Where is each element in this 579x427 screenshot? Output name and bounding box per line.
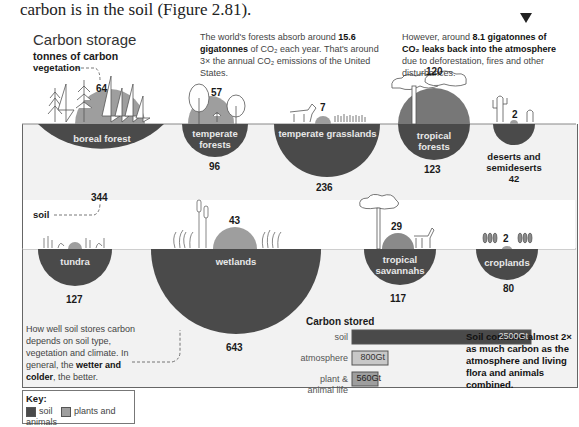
temperate-forests-label: temperateforests [185, 128, 245, 150]
deserts-label: deserts andsemideserts42 [482, 151, 546, 184]
soil-storage-note: How well soil stores carbon depends on s… [26, 323, 146, 383]
chart-title: Carbon storage [33, 31, 136, 48]
tropical-forest-soil-value: 123 [424, 164, 441, 175]
boreal-forest-label: boreal forest [62, 133, 142, 144]
bar-label-soil: soil [290, 332, 348, 343]
vegetation-label: vegetation [33, 62, 81, 73]
soil-label: soil [33, 209, 49, 220]
bar-plant-animal: 560Gt [352, 372, 382, 386]
legend-title: Key: [23, 391, 134, 406]
bar-label-plant-animal: plant &animal life [290, 374, 348, 396]
wetlands-veg-value: 43 [229, 215, 240, 226]
temperate-forest-soil-value: 96 [209, 161, 220, 172]
temperate-grasslands-label: temperate grasslands [270, 128, 385, 139]
legend: Key: soil plants and animals [22, 390, 135, 424]
croplands-soil-value: 80 [503, 283, 514, 294]
bar-atmosphere: 800Gt [352, 351, 388, 365]
plants-swatch-icon [61, 407, 71, 417]
savannah-soil-value: 117 [390, 293, 406, 304]
croplands-veg-value: 2 [503, 233, 509, 244]
tundra-soil-value: 127 [66, 294, 83, 305]
savannah-veg-value: 29 [391, 221, 402, 232]
carbon-stored-title: Carbon stored [306, 316, 374, 327]
legend-items: soil plants and animals [23, 406, 134, 427]
wetlands-label: wetlands [196, 256, 276, 267]
grassland-soil-value: 236 [316, 182, 333, 193]
tropical-forest-veg-value: 120 [426, 66, 443, 77]
boreal-soil-value: 344 [91, 192, 108, 203]
legend-soil: soil [39, 406, 53, 416]
forests-absorb-note: The world's forests absorb around 15.6 g… [200, 31, 380, 79]
bar-label-atmosphere: atmosphere [280, 353, 348, 364]
croplands-label: croplands [477, 257, 537, 268]
grassland-veg-value: 7 [320, 102, 326, 113]
desert-veg-value: 2 [512, 109, 518, 120]
chart-subtitle: tonnes of carbon [33, 50, 118, 62]
soil-swatch-icon [26, 407, 36, 417]
boreal-veg-value: 64 [96, 83, 107, 94]
tropical-forests-label: tropicalforests [404, 130, 464, 152]
bar-soil: 2500Gt [352, 330, 531, 344]
temperate-forest-veg-value: 57 [211, 87, 222, 98]
wetlands-soil-value: 643 [226, 342, 243, 353]
tundra-label: tundra [45, 256, 105, 267]
tropical-savannahs-label: tropicalsavannahs [370, 254, 430, 276]
